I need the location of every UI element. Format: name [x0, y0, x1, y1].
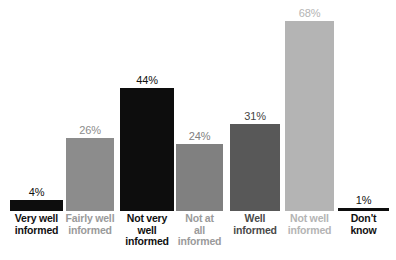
- bar: [10, 200, 63, 211]
- bar-group: 68%: [285, 0, 334, 211]
- bar-value-label: 4%: [29, 186, 45, 198]
- category-label: Wellinformed: [226, 213, 284, 236]
- category-label-line: informed: [116, 236, 178, 248]
- bar-group: 26%: [66, 0, 114, 211]
- category-label: Fairly wellinformed: [62, 213, 118, 236]
- bar-group: 4%: [10, 0, 63, 211]
- bar-group: 31%: [230, 0, 280, 211]
- category-label-line: Very well: [6, 213, 67, 225]
- category-label: Don'tknow: [334, 213, 393, 236]
- category-label-line: know: [334, 225, 393, 237]
- bar-chart: 4%26%44%24%31%68%1% Very wellinformedFai…: [0, 0, 396, 260]
- bar-group: 44%: [120, 0, 174, 211]
- plot-area: 4%26%44%24%31%68%1%: [0, 0, 396, 211]
- category-label: Very wellinformed: [6, 213, 67, 236]
- category-label-line: Not well: [281, 213, 338, 225]
- category-label-line: Don't: [334, 213, 393, 225]
- bar: [120, 88, 174, 211]
- bar-group: 24%: [176, 0, 223, 211]
- bar-value-label: 68%: [299, 7, 321, 19]
- category-label-line: informed: [6, 225, 67, 237]
- bar-value-label: 44%: [136, 74, 158, 86]
- category-label-line: Fairly well: [62, 213, 118, 225]
- bar: [230, 124, 280, 211]
- category-label: Not verywellinformed: [116, 213, 178, 248]
- category-label-line: informed: [62, 225, 118, 237]
- bar-group: 1%: [338, 0, 389, 211]
- category-axis: Very wellinformedFairly wellinformedNot …: [0, 211, 396, 260]
- bar: [176, 144, 223, 211]
- bar: [66, 138, 114, 211]
- category-label: Not wellinformed: [281, 213, 338, 236]
- bar-value-label: 26%: [79, 124, 101, 136]
- category-label-line: Well: [226, 213, 284, 225]
- bar: [285, 21, 334, 211]
- category-label: Not atallinformed: [172, 213, 227, 248]
- bar-value-label: 31%: [244, 110, 266, 122]
- category-label-line: informed: [226, 225, 284, 237]
- bar-value-label: 24%: [189, 130, 211, 142]
- category-label-line: Not very: [116, 213, 178, 225]
- category-label-line: informed: [281, 225, 338, 237]
- category-label-line: informed: [172, 236, 227, 248]
- category-label-line: Not at: [172, 213, 227, 225]
- bar-value-label: 1%: [356, 194, 372, 206]
